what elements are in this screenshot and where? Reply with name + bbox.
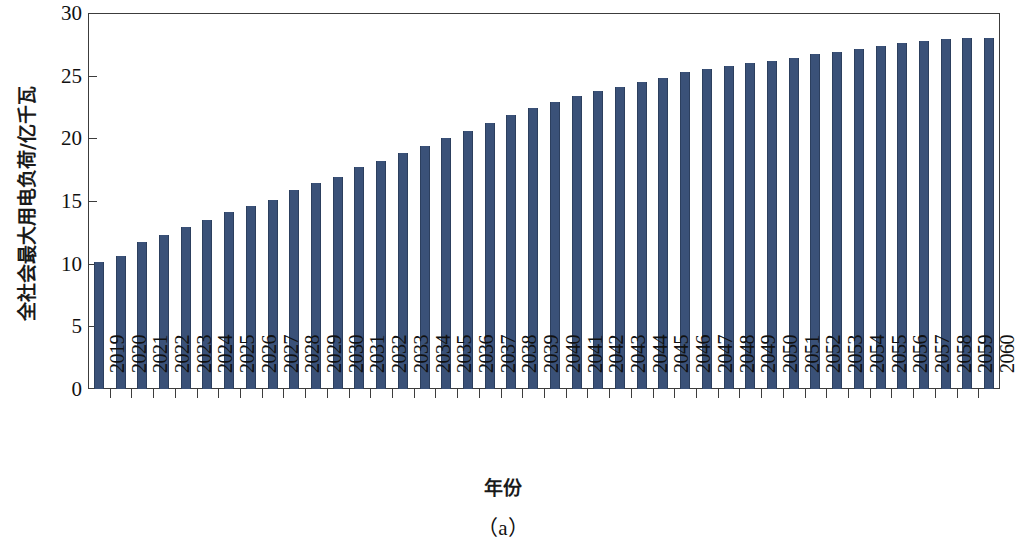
y-axis-title: 全社会最大用电负荷/亿千瓦	[12, 14, 39, 394]
x-tick-label: 2026	[259, 335, 279, 397]
x-tick-label: 2045	[671, 335, 691, 397]
x-tick-label: 2042	[606, 335, 626, 397]
y-tick-label: 25	[48, 64, 82, 89]
x-tick-label: 2028	[302, 335, 322, 397]
x-tick-label: 2027	[281, 335, 301, 397]
x-tick-label: 2041	[585, 335, 605, 397]
x-tick-label: 2034	[433, 335, 453, 397]
x-tick-label: 2046	[693, 335, 713, 397]
x-tick-label: 2047	[715, 335, 735, 397]
y-tick-label: 15	[48, 189, 82, 214]
x-tick-label: 2040	[563, 335, 583, 397]
x-axis-labels: 2019202020212022202320242025202620272028…	[0, 389, 1006, 469]
x-tick-label: 2043	[628, 335, 648, 397]
x-tick-label: 2023	[194, 335, 214, 397]
x-tick-label: 2057	[932, 335, 952, 397]
x-tick-label: 2048	[737, 335, 757, 397]
figure-caption: （a）	[0, 511, 1006, 537]
x-tick-label: 2036	[476, 335, 496, 397]
x-tick-label: 2037	[498, 335, 518, 397]
y-tick-label: 30	[48, 1, 82, 26]
x-tick-label: 2051	[802, 335, 822, 397]
x-tick-label: 2049	[758, 335, 778, 397]
x-tick-label: 2035	[454, 335, 474, 397]
x-tick-label: 2025	[237, 335, 257, 397]
x-tick-label: 2022	[172, 335, 192, 397]
x-tick-label: 2059	[975, 335, 995, 397]
x-tick-label: 2031	[367, 335, 387, 397]
x-tick-label: 2060	[997, 335, 1017, 397]
x-tick-label: 2056	[910, 335, 930, 397]
bar	[94, 262, 104, 389]
x-tick-label: 2044	[650, 335, 670, 397]
x-tick-label: 2055	[889, 335, 909, 397]
x-tick-label: 2021	[150, 335, 170, 397]
x-tick-label: 2032	[389, 335, 409, 397]
x-tick-label: 2033	[411, 335, 431, 397]
x-tick-label: 2039	[541, 335, 561, 397]
x-tick-label: 2052	[823, 335, 843, 397]
y-tick-label: 10	[48, 252, 82, 277]
x-tick-label: 2024	[215, 335, 235, 397]
x-tick-label: 2020	[129, 335, 149, 397]
x-tick-label: 2054	[867, 335, 887, 397]
x-tick-label: 2029	[324, 335, 344, 397]
x-tick-label: 2053	[845, 335, 865, 397]
bars-group	[88, 13, 1000, 389]
x-tick-label: 2058	[954, 335, 974, 397]
x-tick-label: 2030	[346, 335, 366, 397]
x-tick-label: 2019	[107, 335, 127, 397]
x-tick-label: 2050	[780, 335, 800, 397]
y-tick-label: 5	[48, 314, 82, 339]
y-tick-label: 20	[48, 126, 82, 151]
x-axis-title: 年份	[0, 473, 1006, 500]
x-tick-label: 2038	[519, 335, 539, 397]
